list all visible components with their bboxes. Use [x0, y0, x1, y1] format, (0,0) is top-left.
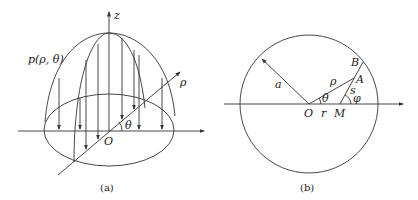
pressure-label: p(ρ, θ) — [28, 53, 64, 66]
caption-b: (b) — [300, 182, 314, 193]
figure-a: z p(ρ, θ) ρ θ O (a) — [18, 9, 204, 193]
b-point-label: B — [350, 56, 359, 69]
origin-label: O — [304, 107, 313, 120]
theta-label: θ — [322, 92, 329, 105]
theta-label: θ — [125, 119, 132, 132]
rho-label: ρ — [329, 75, 337, 88]
z-label: z — [113, 9, 120, 22]
caption-a: (a) — [100, 182, 114, 193]
m-label: M — [333, 107, 346, 120]
figure-b: a ρ θ O r M s φ A B (b) — [224, 35, 403, 193]
phi-label: φ — [353, 92, 361, 105]
outer-dome — [45, 33, 175, 122]
radius-label: a — [275, 78, 282, 91]
figure-canvas: z p(ρ, θ) ρ θ O (a) a ρ θ O r M s φ A B … — [0, 0, 418, 200]
radius-line — [262, 59, 309, 104]
origin-label: O — [104, 135, 113, 148]
a-point-label: A — [355, 73, 364, 86]
rho-label: ρ — [179, 76, 187, 89]
theta-arc — [319, 98, 321, 104]
r-label: r — [321, 107, 327, 120]
